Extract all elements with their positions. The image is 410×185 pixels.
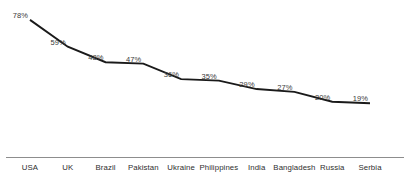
data-point-label: 35% xyxy=(202,71,217,80)
data-series-line xyxy=(30,20,370,103)
data-point-label: 36% xyxy=(164,70,179,79)
category-axis-label: Ukraine xyxy=(167,163,195,172)
data-point-label: 59% xyxy=(50,37,65,46)
line-chart: 78%59%48%47%36%35%29%27%20%19% USAUKBraz… xyxy=(0,0,410,185)
category-axis-label: Brazil xyxy=(95,163,115,172)
category-axis-label: UK xyxy=(62,163,73,172)
data-point-label: 27% xyxy=(277,82,292,91)
category-axis-label: Serbia xyxy=(358,163,381,172)
category-axis-label: USA xyxy=(22,163,38,172)
plot-area: 78%59%48%47%36%35%29%27%20%19% xyxy=(0,0,410,150)
category-axis-label: Philippines xyxy=(199,163,238,172)
data-point-label: 20% xyxy=(315,92,330,101)
data-point-label: 47% xyxy=(126,54,141,63)
category-axis: USAUKBrazilPakistanUkrainePhilippinesInd… xyxy=(0,163,410,181)
axis-divider-line xyxy=(6,157,404,158)
data-point-label: 29% xyxy=(239,80,254,89)
category-axis-label: India xyxy=(248,163,265,172)
category-axis-label: Pakistan xyxy=(128,163,159,172)
data-point-label: 19% xyxy=(353,94,368,103)
data-point-label: 78% xyxy=(13,10,28,19)
category-axis-label: Russia xyxy=(320,163,344,172)
data-point-label: 48% xyxy=(88,53,103,62)
category-axis-label: Bangladesh xyxy=(273,163,315,172)
